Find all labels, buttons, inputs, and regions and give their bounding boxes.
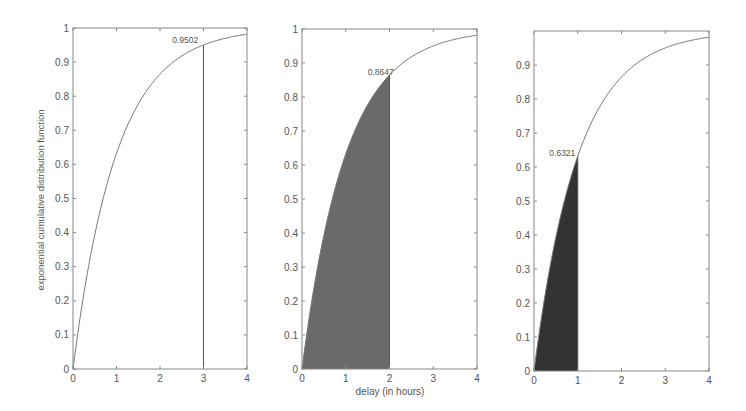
x-tick-label: 1 (114, 373, 120, 384)
y-tick-label: 0.7 (284, 126, 298, 137)
panel-cdf-x3: 0123400.10.20.30.40.50.60.70.80.910.9502 (55, 23, 250, 385)
x-axis-label: delay (in hours) (356, 386, 425, 397)
y-tick-label: 0.9 (516, 60, 530, 71)
y-tick-label: 0.9 (284, 58, 298, 69)
y-tick-label: 0.4 (55, 227, 69, 238)
x-tick-label: 3 (430, 373, 436, 384)
value-annotation: 0.9502 (172, 35, 198, 45)
y-tick-label: 1 (292, 24, 298, 35)
x-tick-label: 1 (575, 375, 581, 386)
y-tick-label: 0 (292, 364, 298, 375)
shaded-area (302, 75, 390, 369)
y-tick-label: 0.2 (55, 295, 69, 306)
x-tick-label: 0 (531, 375, 537, 386)
x-tick-label: 3 (201, 373, 207, 384)
cdf-figure: 0123400.10.20.30.40.50.60.70.80.910.9502… (0, 0, 746, 411)
x-tick-label: 4 (244, 373, 250, 384)
y-tick-label: 1 (63, 23, 69, 34)
x-tick-label: 3 (662, 375, 668, 386)
y-tick-label: 0.3 (284, 262, 298, 273)
panel-cdf-x2: 0123400.10.20.30.40.50.60.70.80.910.8647 (284, 24, 480, 385)
y-tick-label: 0.7 (516, 128, 530, 139)
y-tick-label: 0.4 (516, 230, 530, 241)
value-annotation: 0.8647 (368, 67, 394, 77)
y-tick-label: 0.5 (284, 194, 298, 205)
x-tick-label: 2 (387, 373, 393, 384)
y-tick-label: 0.7 (55, 125, 69, 136)
y-tick-label: 0.4 (284, 228, 298, 239)
value-annotation: 0.6321 (549, 148, 575, 158)
y-tick-label: 0.8 (55, 91, 69, 102)
x-tick-label: 2 (157, 373, 163, 384)
y-tick-label: 0 (63, 364, 69, 375)
x-tick-label: 0 (70, 373, 76, 384)
x-tick-label: 0 (299, 373, 305, 384)
y-tick-label: 0.8 (516, 94, 530, 105)
x-tick-label: 2 (619, 375, 625, 386)
y-tick-label: 0.2 (284, 296, 298, 307)
y-tick-label: 0.6 (284, 160, 298, 171)
y-tick-label: 0.8 (284, 92, 298, 103)
shaded-area (534, 156, 578, 371)
y-tick-label: 0.6 (516, 162, 530, 173)
y-tick-label: 0.2 (516, 298, 530, 309)
y-tick-label: 0.3 (55, 261, 69, 272)
y-tick-label: 0.3 (516, 264, 530, 275)
y-axis-label: exponential cumulative distribution func… (35, 109, 46, 290)
x-tick-label: 4 (474, 373, 480, 384)
x-tick-label: 1 (343, 373, 349, 384)
y-tick-label: 0.9 (55, 57, 69, 68)
y-tick-label: 0.1 (516, 332, 530, 343)
y-tick-label: 0.5 (516, 196, 530, 207)
axes-box (73, 28, 247, 369)
panel-cdf-x1: 0123400.10.20.30.40.50.60.70.80.90.6321 (516, 31, 712, 386)
cdf-curve (73, 34, 247, 369)
x-tick-label: 4 (706, 375, 712, 386)
y-tick-label: 0.1 (55, 329, 69, 340)
y-tick-label: 0.5 (55, 193, 69, 204)
y-tick-label: 0.1 (284, 330, 298, 341)
y-tick-label: 0 (524, 366, 530, 377)
y-tick-label: 0.6 (55, 159, 69, 170)
